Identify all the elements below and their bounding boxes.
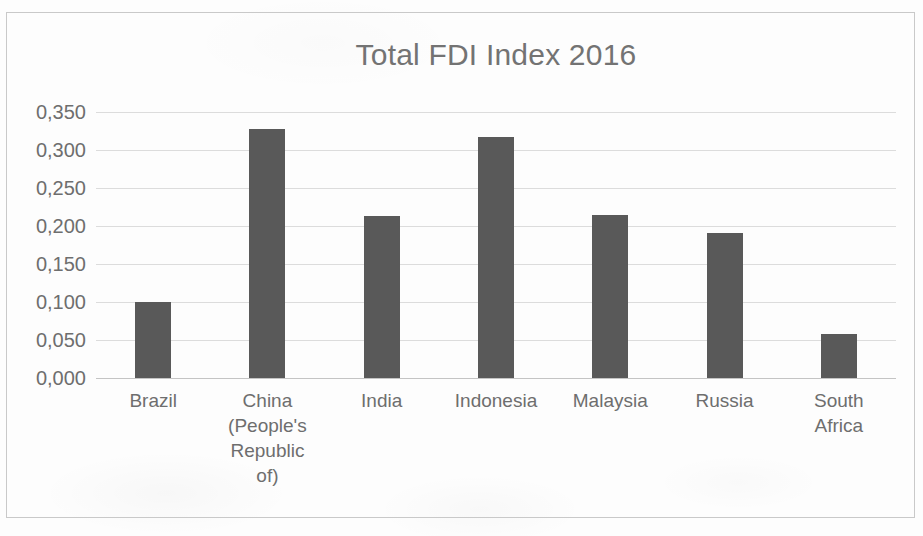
bar [249,129,285,378]
x-axis-category-label: China(People'sRepublicof) [211,388,323,488]
y-axis-tick-label: 0,200 [20,215,86,238]
x-axis-category-label: Russia [669,388,781,413]
y-axis-tick-labels: 0,3500,3000,2500,2000,1500,1000,0500,000 [20,112,86,378]
bar [135,302,171,378]
y-axis-tick-label: 0,150 [20,253,86,276]
bar [364,216,400,378]
bar [821,334,857,378]
y-axis-tick-label: 0,100 [20,291,86,314]
x-axis-category-label: India [326,388,438,413]
bar [592,215,628,378]
gridline [96,378,896,379]
y-axis-tick-label: 0,050 [20,329,86,352]
bar-series [96,112,896,378]
x-axis-category-label: Brazil [97,388,209,413]
x-axis-category-labels: BrazilChina(People'sRepublicof)IndiaIndo… [96,388,896,518]
bar [707,233,743,378]
y-axis-tick-label: 0,250 [20,177,86,200]
x-axis-category-label: SouthAfrica [783,388,895,438]
y-axis-tick-label: 0,350 [20,101,86,124]
y-axis-tick-label: 0,300 [20,139,86,162]
bar [478,137,514,378]
y-axis-tick-label: 0,000 [20,367,86,390]
x-axis-category-label: Malaysia [554,388,666,413]
chart-title: Total FDI Index 2016 [96,38,896,72]
x-axis-category-label: Indonesia [440,388,552,413]
